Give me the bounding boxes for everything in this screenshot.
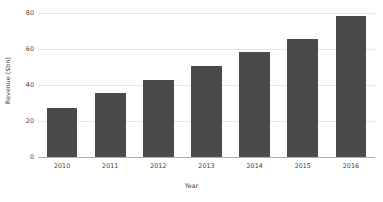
y-axis-tick-label: 80 bbox=[20, 9, 34, 17]
y-axis-tick-label: 20 bbox=[20, 117, 34, 125]
bar-chart-figure: Revenue ($bn) 020406080 Year 20102011201… bbox=[0, 0, 383, 202]
x-axis-tick-label: 2011 bbox=[102, 162, 118, 170]
y-axis-title: Revenue ($bn) bbox=[0, 0, 14, 160]
bar-slot bbox=[239, 13, 270, 157]
x-axis-tick-label: 2015 bbox=[295, 162, 311, 170]
x-axis-tick-label: 2014 bbox=[247, 162, 263, 170]
x-axis-title: Year bbox=[0, 182, 383, 190]
y-axis-title-text: Revenue ($bn) bbox=[4, 57, 11, 104]
bar-slot bbox=[336, 13, 367, 157]
bar-slot bbox=[143, 13, 174, 157]
bar-slot bbox=[287, 13, 318, 157]
bar[interactable] bbox=[287, 39, 318, 157]
x-axis-tick-label: 2013 bbox=[198, 162, 214, 170]
x-axis-title-text: Year bbox=[185, 182, 199, 190]
bar[interactable] bbox=[191, 66, 222, 157]
x-axis-tick-label: 2010 bbox=[54, 162, 70, 170]
y-axis-tick-label: 0 bbox=[20, 153, 34, 161]
bar-slot bbox=[95, 13, 126, 157]
x-axis-line bbox=[38, 157, 375, 158]
bar[interactable] bbox=[95, 93, 126, 157]
bar[interactable] bbox=[47, 108, 78, 158]
bar[interactable] bbox=[336, 16, 367, 157]
x-axis-tick-label: 2012 bbox=[150, 162, 166, 170]
y-axis-tick-label: 40 bbox=[20, 81, 34, 89]
bar-slot bbox=[191, 13, 222, 157]
bar[interactable] bbox=[143, 80, 174, 157]
bar-slot bbox=[47, 13, 78, 157]
x-axis-tick-label: 2016 bbox=[343, 162, 359, 170]
bar[interactable] bbox=[239, 52, 270, 157]
plot-area bbox=[38, 13, 375, 157]
y-axis-tick-label: 60 bbox=[20, 45, 34, 53]
